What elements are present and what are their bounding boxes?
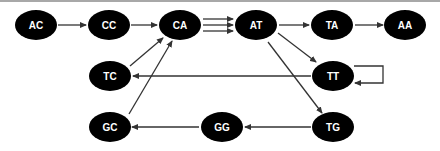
- node-TA: TA: [311, 10, 353, 40]
- node-TC: TC: [89, 61, 131, 91]
- node-CC: CC: [88, 10, 130, 40]
- node-label: AA: [398, 20, 412, 31]
- node-label: AT: [250, 20, 263, 31]
- node-label: GC: [103, 122, 118, 133]
- node-TT: TT: [312, 61, 354, 91]
- node-label: CA: [173, 20, 187, 31]
- edge-GC-CA: [129, 41, 172, 114]
- node-CA: CA: [159, 10, 201, 40]
- edge-TT-TT-loop: [354, 66, 383, 83]
- node-GC: GC: [89, 112, 131, 142]
- node-AT: AT: [235, 10, 277, 40]
- graph-canvas: AC CC CA AT TA AA TC TT GC GG TG: [0, 0, 440, 151]
- edge-TC-CA: [130, 38, 163, 66]
- node-label: AC: [29, 20, 43, 31]
- node-AA: AA: [384, 10, 426, 40]
- node-label: GG: [214, 122, 230, 133]
- node-TG: TG: [312, 112, 354, 142]
- node-label: TA: [326, 20, 339, 31]
- node-label: TC: [103, 71, 116, 82]
- node-label: TG: [326, 122, 340, 133]
- node-GG: GG: [201, 112, 243, 142]
- node-AC: AC: [15, 10, 57, 40]
- node-label: TT: [327, 71, 339, 82]
- node-label: CC: [102, 20, 116, 31]
- edge-AT-TT: [278, 33, 316, 62]
